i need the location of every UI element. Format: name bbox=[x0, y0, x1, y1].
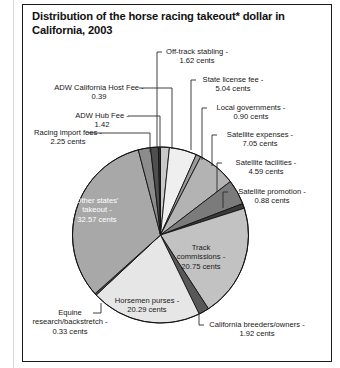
callout-satellite-promotion-line2: 0.88 cents bbox=[214, 196, 330, 205]
callout-off-track-stabling: Off-track stabling - 1.62 cents bbox=[143, 47, 251, 66]
slice-label-track-commissions-line1: Track bbox=[159, 243, 243, 252]
slice-label-other-states-line2: takeout - bbox=[53, 205, 141, 214]
slice-label-horsemen-purses-line2: 20.29 cents bbox=[98, 305, 196, 314]
callout-satellite-expenses-line2: 7.05 cents bbox=[205, 139, 315, 148]
callout-satellite-expenses: Satellite expenses - 7.05 cents bbox=[205, 130, 315, 149]
callout-satellite-facilities: Satellite facilities - 4.59 cents bbox=[211, 158, 321, 177]
callout-ca-breeders-line1: California breeders/owners - bbox=[192, 320, 322, 329]
slice-label-other-states-takeout: Other states' takeout - 32.57 cents bbox=[53, 196, 141, 224]
slice-label-track-commissions-line2: commissions - bbox=[159, 252, 243, 261]
slice-label-horsemen-purses-line1: Horsemen purses - bbox=[98, 296, 196, 305]
callout-adw-hub-line2: 1.42 bbox=[62, 120, 142, 129]
callout-local-governments: Local governments - 0.90 cents bbox=[196, 103, 306, 122]
callout-local-governments-line2: 0.90 cents bbox=[196, 112, 306, 121]
callout-california-breeders-owners: California breeders/owners - 1.92 cents bbox=[192, 320, 322, 339]
callout-racing-import-line2: 2.25 cents bbox=[18, 137, 118, 146]
callout-adw-host-line1: ADW California Host Fee - bbox=[44, 83, 154, 92]
slice-label-track-commissions: Track commissions - 20.75 cents bbox=[159, 243, 243, 271]
callout-adw-california-host-fee: ADW California Host Fee - 0.39 bbox=[44, 83, 154, 102]
callout-off-track-stabling-line2: 1.62 cents bbox=[143, 56, 251, 65]
callout-adw-hub-fee: ADW Hub Fee - 1.42 bbox=[62, 111, 142, 130]
callout-state-license-fee-line1: State license fee - bbox=[182, 75, 284, 84]
figure-container: Distribution of the horse racing takeout… bbox=[0, 0, 340, 368]
callout-adw-hub-line1: ADW Hub Fee - bbox=[62, 111, 142, 120]
callout-satellite-expenses-line1: Satellite expenses - bbox=[205, 130, 315, 139]
callout-equine-line2: research/backstretch - bbox=[18, 317, 122, 326]
callout-racing-import-fees: Racing import fees - 2.25 cents bbox=[18, 128, 118, 147]
slice-label-track-commissions-line3: 20.75 cents bbox=[159, 262, 243, 271]
slice-label-other-states-line1: Other states' bbox=[53, 196, 141, 205]
callout-adw-host-line2: 0.39 bbox=[44, 92, 154, 101]
callout-state-license-fee-line2: 5.04 cents bbox=[182, 84, 284, 93]
callout-local-governments-line1: Local governments - bbox=[196, 103, 306, 112]
callout-state-license-fee: State license fee - 5.04 cents bbox=[182, 75, 284, 94]
callout-satellite-promotion-line1: Satellite promotion - bbox=[214, 187, 330, 196]
slice-label-horsemen-purses: Horsemen purses - 20.29 cents bbox=[98, 296, 196, 315]
callout-satellite-facilities-line2: 4.59 cents bbox=[211, 167, 321, 176]
leader-off-track-stabling bbox=[157, 52, 162, 148]
slice-label-other-states-line3: 32.57 cents bbox=[53, 215, 141, 224]
callout-equine-line3: 0.33 cents bbox=[18, 327, 122, 336]
callout-satellite-promotion: Satellite promotion - 0.88 cents bbox=[214, 187, 330, 206]
callout-ca-breeders-line2: 1.92 cents bbox=[192, 329, 322, 338]
callout-satellite-facilities-line1: Satellite facilities - bbox=[211, 158, 321, 167]
callout-off-track-stabling-line1: Off-track stabling - bbox=[143, 47, 251, 56]
